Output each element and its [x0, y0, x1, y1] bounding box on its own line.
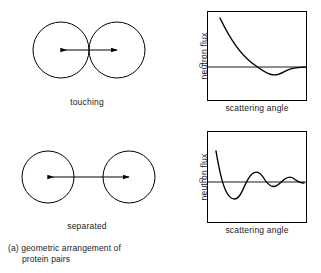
panel-a-label-line1: (a) geometric arrangement of — [8, 243, 121, 253]
interference-curve-touching — [220, 18, 306, 75]
chart-touching-interference: neutron flux 0 scattering angle — [207, 11, 307, 101]
diagram-caption-separated: separated — [12, 221, 162, 231]
chart-plot-area — [207, 131, 307, 223]
chart-plot-area — [207, 11, 307, 101]
chart-xlabel: scattering angle — [207, 225, 307, 235]
figure-root: touching separated (a) geometric arrange… — [0, 0, 321, 273]
chart-separated-interference: neutron flux 0 scattering angle — [207, 131, 307, 223]
diagram-touching-pair — [12, 14, 162, 92]
interference-curve-separated — [216, 151, 304, 199]
chart-xlabel: scattering angle — [207, 103, 307, 113]
chart-ylabel: neutron flux — [199, 33, 209, 80]
panel-a-geometric-arrangement: touching separated (a) geometric arrange… — [0, 0, 172, 273]
chart-zero-tick: 0 — [199, 62, 203, 69]
diagram-separated-pair — [12, 140, 162, 218]
touching-circles-svg — [12, 14, 162, 92]
separated-circles-svg — [12, 140, 162, 218]
diagram-caption-touching: touching — [12, 97, 162, 107]
chart-zero-tick: 0 — [199, 177, 203, 184]
panel-a-label-line2: protein pairs — [8, 254, 168, 265]
panel-a-label: (a) geometric arrangement of protein pai… — [8, 243, 168, 265]
panel-b-interference-curves: neutron flux 0 scattering angle neutron … — [172, 0, 321, 273]
